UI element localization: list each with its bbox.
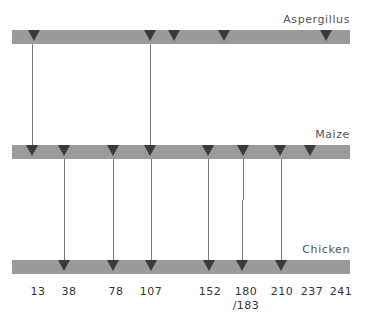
marker-triangle-icon bbox=[144, 145, 156, 156]
position-label: 78 bbox=[109, 285, 124, 299]
marker-triangle-icon bbox=[320, 30, 332, 41]
connector-line bbox=[151, 159, 152, 260]
marker-triangle-icon bbox=[58, 260, 70, 271]
track-label-chicken: Chicken bbox=[302, 243, 350, 256]
marker-triangle-icon bbox=[237, 145, 249, 156]
marker-triangle-icon bbox=[144, 30, 156, 41]
position-label: 180/183 bbox=[233, 285, 260, 313]
marker-triangle-icon bbox=[107, 260, 119, 271]
marker-triangle-icon bbox=[203, 260, 215, 271]
position-label: 107 bbox=[140, 285, 163, 299]
track-label-maize: Maize bbox=[315, 128, 350, 141]
connector-line bbox=[64, 159, 65, 260]
marker-triangle-icon bbox=[107, 145, 119, 156]
marker-triangle-icon bbox=[304, 145, 316, 156]
position-label: 210 bbox=[271, 285, 294, 299]
connector-line bbox=[32, 44, 33, 145]
marker-triangle-icon bbox=[58, 145, 70, 156]
marker-triangle-icon bbox=[28, 30, 40, 41]
position-label: 241 bbox=[330, 285, 353, 299]
position-label: 152 bbox=[199, 285, 222, 299]
marker-triangle-icon bbox=[168, 30, 180, 41]
connector-line bbox=[150, 44, 151, 145]
connector-line bbox=[242, 200, 243, 260]
marker-triangle-icon bbox=[275, 260, 287, 271]
marker-triangle-icon bbox=[274, 145, 286, 156]
sequence-bar-aspergillus bbox=[12, 30, 350, 44]
connector-line bbox=[243, 159, 244, 200]
marker-triangle-icon bbox=[145, 260, 157, 271]
marker-triangle-icon bbox=[236, 260, 248, 271]
connector-line bbox=[113, 159, 114, 260]
track-label-aspergillus: Aspergillus bbox=[283, 13, 350, 26]
connector-line bbox=[208, 159, 209, 260]
position-label: 237 bbox=[301, 285, 324, 299]
marker-triangle-icon bbox=[218, 30, 230, 41]
marker-triangle-icon bbox=[202, 145, 214, 156]
position-label: 13 bbox=[31, 285, 46, 299]
marker-triangle-icon bbox=[26, 145, 38, 156]
connector-line bbox=[281, 159, 282, 260]
position-label: 38 bbox=[62, 285, 77, 299]
